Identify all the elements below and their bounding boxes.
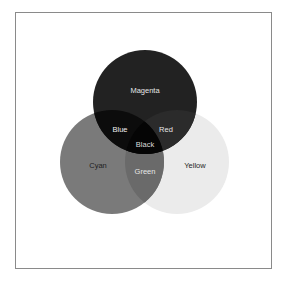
red-label: Red	[159, 125, 173, 134]
magenta-label: Magenta	[130, 86, 160, 95]
blue-label: Blue	[112, 125, 127, 134]
venn-diagram: Magenta Blue Red Black Cyan Green Yellow	[0, 0, 287, 291]
black-label: Black	[136, 140, 155, 149]
yellow-label: Yellow	[184, 161, 206, 170]
cyan-label: Cyan	[89, 161, 107, 170]
green-label: Green	[135, 167, 156, 176]
